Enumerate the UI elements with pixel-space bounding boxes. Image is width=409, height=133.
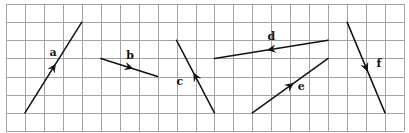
vector-label: b	[126, 49, 134, 62]
vector-grid-diagram: abcdef	[0, 0, 409, 133]
vector-label: a	[50, 46, 57, 59]
vectors: abcdef	[25, 22, 385, 113]
vector-b: b	[101, 49, 158, 76]
vector-label: f	[376, 57, 382, 70]
arrowhead-icon	[47, 64, 55, 74]
grid-canvas: abcdef	[0, 0, 409, 133]
vector-c: c	[177, 40, 215, 113]
grid	[6, 4, 405, 132]
vector-a: a	[25, 22, 82, 113]
vector-label: e	[298, 80, 305, 93]
vector-label: d	[268, 30, 276, 43]
vector-label: c	[177, 75, 184, 88]
